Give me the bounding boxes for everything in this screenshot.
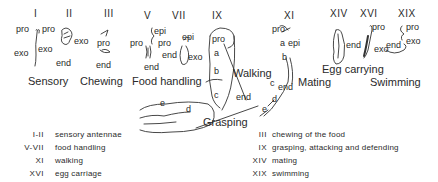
label-iii-pro: pro bbox=[97, 38, 110, 48]
numeral-ii: II bbox=[66, 8, 73, 19]
legend-text: swimming bbox=[272, 169, 309, 178]
label-ix-c: c bbox=[214, 90, 219, 100]
numeral-xi: XI bbox=[284, 10, 294, 21]
caption-swimming: Swimming bbox=[370, 76, 421, 88]
numeral-ix: IX bbox=[212, 10, 222, 21]
label-xvi-end: end bbox=[346, 40, 361, 50]
antenna-ii-drawing bbox=[61, 28, 72, 45]
label-v-epi: epi bbox=[154, 26, 166, 36]
label-v-pro: pro bbox=[130, 38, 143, 48]
caption-walking: Walking bbox=[233, 67, 272, 79]
pleopod-xvi-drawing bbox=[364, 26, 372, 59]
numeral-xiv: XIV bbox=[330, 8, 348, 19]
label-xi-epi: epi bbox=[288, 38, 300, 48]
label-xix-pro: pro bbox=[406, 22, 419, 32]
label-ix-b: b bbox=[214, 66, 219, 76]
label-xix-end: end bbox=[386, 40, 401, 50]
label-xi-e: e bbox=[262, 104, 267, 114]
label-xi-d: d bbox=[272, 94, 277, 104]
numeral-xvi: XVI bbox=[360, 8, 378, 19]
caption-grasping: Grasping bbox=[203, 116, 248, 128]
legend-range: IX bbox=[237, 143, 267, 152]
legend-text: mating bbox=[272, 156, 297, 165]
label-v-end: end bbox=[144, 62, 159, 72]
legend-range: V-VII bbox=[14, 143, 44, 152]
label-ix-a: a bbox=[214, 48, 219, 58]
legend-range: III bbox=[237, 130, 267, 139]
legend-range: XVI bbox=[14, 169, 44, 178]
label-ix-e: e bbox=[160, 98, 165, 108]
numeral-v: V bbox=[144, 10, 151, 21]
legend-text: food handling bbox=[55, 143, 106, 152]
label-ii-exo: exo bbox=[74, 36, 89, 46]
caption-chewing: Chewing bbox=[80, 75, 123, 87]
legend-text: walking bbox=[55, 156, 83, 165]
label-vii-pro: pro bbox=[158, 38, 171, 48]
label-xi-pro: pro bbox=[272, 24, 285, 34]
legend-range: XIX bbox=[237, 169, 267, 178]
label-i-exo: exo bbox=[14, 48, 29, 58]
label-ix-d: d bbox=[186, 104, 191, 114]
caption-sensory: Sensory bbox=[28, 75, 68, 87]
gonopod-xiv-drawing bbox=[333, 30, 344, 65]
label-vii-exo: exo bbox=[188, 52, 203, 62]
label-xi-b: b bbox=[282, 52, 287, 62]
label-vii-end: end bbox=[162, 50, 177, 60]
label-xix-exo: exo bbox=[406, 36, 421, 46]
label-vii-epi: epi bbox=[182, 32, 194, 42]
legend-text: egg carriage bbox=[55, 169, 102, 178]
label-xi-a: a bbox=[280, 38, 285, 48]
numeral-i: I bbox=[34, 8, 37, 19]
caption-egg-carrying: Egg carrying bbox=[322, 63, 384, 75]
label-i-pro: pro bbox=[16, 24, 29, 34]
legend-range: XIV bbox=[237, 156, 267, 165]
numeral-xix: XIX bbox=[398, 8, 416, 19]
label-ix-pro: pro bbox=[212, 34, 225, 44]
label-xi-end: end bbox=[278, 82, 293, 92]
label-ii-end: end bbox=[56, 58, 71, 68]
numeral-vii: VII bbox=[172, 10, 186, 21]
legend-text: grasping, attacking and defending bbox=[272, 143, 399, 152]
caption-food-handling: Food handling bbox=[132, 75, 202, 87]
label-ii-pro: pro bbox=[42, 24, 55, 34]
numeral-iii: III bbox=[104, 8, 114, 19]
label-iii-end: end bbox=[96, 60, 111, 70]
label-ix-end: end bbox=[236, 92, 251, 102]
caption-mating: Mating bbox=[298, 76, 331, 88]
legend-text: chewing of the food bbox=[272, 130, 345, 139]
label-ii-exo-inner: exo bbox=[38, 44, 53, 54]
label-xi-c: c bbox=[270, 78, 275, 88]
legend-text: sensory antennae bbox=[55, 130, 122, 139]
legend-range: XI bbox=[14, 156, 44, 165]
label-xvi-pro: pro bbox=[372, 22, 385, 32]
maxilla-v-drawing bbox=[146, 28, 154, 58]
legend-range: I-II bbox=[14, 130, 44, 139]
